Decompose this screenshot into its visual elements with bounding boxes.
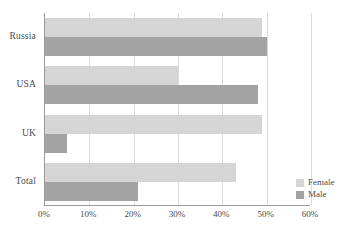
bar-total-female[interactable]	[45, 163, 236, 182]
bar-russia-male[interactable]	[45, 37, 267, 56]
x-tick-10%: 10%	[80, 209, 97, 219]
legend-item-female[interactable]: Female	[296, 178, 335, 187]
legend-label-female: Female	[308, 178, 335, 187]
bar-usa-male[interactable]	[45, 85, 258, 104]
legend-swatch-female-icon	[296, 179, 304, 187]
y-axis-label-uk: UK	[0, 128, 36, 138]
legend-swatch-male-icon	[296, 191, 304, 199]
chart-legend: Female Male	[296, 178, 335, 202]
x-tick-60%: 60%	[302, 209, 319, 219]
legend-item-male[interactable]: Male	[296, 190, 335, 199]
y-axis-label-total: Total	[0, 176, 36, 186]
gridline-50%	[267, 13, 268, 205]
x-tick-30%: 30%	[169, 209, 186, 219]
bar-total-male[interactable]	[45, 182, 138, 201]
x-tick-0%: 0%	[38, 209, 50, 219]
x-tick-40%: 40%	[213, 209, 230, 219]
y-axis-label-usa: USA	[0, 79, 36, 89]
plot-area	[44, 13, 310, 206]
bar-usa-female[interactable]	[45, 66, 178, 85]
x-tick-20%: 20%	[124, 209, 141, 219]
bar-russia-female[interactable]	[45, 18, 262, 37]
y-axis-label-russia: Russia	[0, 31, 36, 41]
x-tick-50%: 50%	[257, 209, 274, 219]
bar-uk-male[interactable]	[45, 134, 67, 153]
bar-chart: RussiaUSAUKTotal 0%10%20%30%40%50%60% Fe…	[0, 0, 362, 240]
legend-label-male: Male	[308, 190, 327, 199]
bar-uk-female[interactable]	[45, 115, 262, 134]
